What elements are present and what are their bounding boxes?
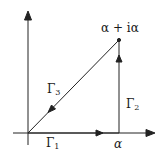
alpha-label: α xyxy=(114,137,122,151)
x-axis-arrow-icon xyxy=(146,130,155,137)
gamma1-arrow-icon xyxy=(96,130,103,136)
gamma3-label: Γ3 xyxy=(47,82,60,97)
gamma2-label: Γ2 xyxy=(126,97,139,112)
contour-diagram: α + iα α Γ1 Γ2 Γ3 xyxy=(0,0,160,161)
gamma1-label: Γ1 xyxy=(46,136,59,151)
y-axis-arrow-icon xyxy=(25,11,32,20)
gamma2-arrow-icon xyxy=(116,55,122,62)
apex-label: α + iα xyxy=(101,21,139,35)
contour xyxy=(28,38,122,136)
gamma3-segment xyxy=(28,40,119,133)
apex-point xyxy=(117,38,120,41)
